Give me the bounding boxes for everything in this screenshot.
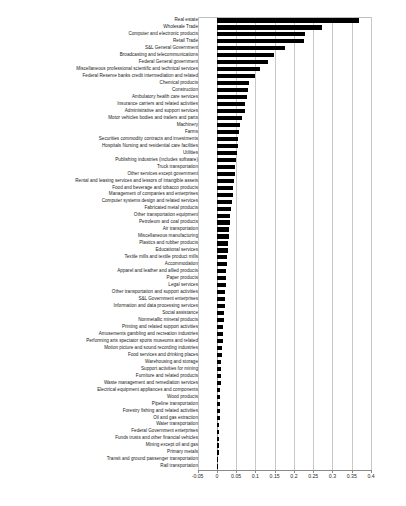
category-label: Oil and gas extraction <box>153 415 198 421</box>
bar <box>217 130 239 134</box>
bar <box>217 60 269 64</box>
category-label: Primary metals <box>167 449 198 455</box>
category-label: Retail Trade <box>173 38 198 44</box>
bar-row: Support activities for mining <box>0 365 406 372</box>
bar <box>217 39 304 43</box>
tickmark-0 <box>217 470 218 473</box>
bar <box>217 276 226 280</box>
bar-row: Utilities <box>0 149 406 156</box>
bar-row: Real estate <box>0 17 406 24</box>
bar-row: Social assistance <box>0 310 406 317</box>
x-tick-label: 0.1 <box>252 473 259 479</box>
bar-row: Funds trusts and other financial vehicle… <box>0 435 406 442</box>
category-label: Computer and electronic products <box>128 31 198 37</box>
x-tick-label: 0.2 <box>290 473 297 479</box>
category-label: Computer systems design and related serv… <box>102 198 198 204</box>
bar <box>217 423 220 427</box>
bar-row: Transit and ground passenger transportat… <box>0 456 406 463</box>
bar <box>217 88 248 92</box>
bar <box>217 95 247 99</box>
category-label: Mining except oil and gas <box>146 442 198 448</box>
x-tick-label: -0.05 <box>192 473 204 479</box>
bar <box>217 123 240 127</box>
bar-row: Management of companies and enterprises <box>0 191 406 198</box>
category-label: Ambulatory health care services <box>132 94 198 100</box>
category-label: Fabricated metal products <box>144 205 198 211</box>
bar-row: Food and beverage and tobacco products <box>0 184 406 191</box>
bar-row: Publishing industries (includes software… <box>0 156 406 163</box>
bar <box>217 18 360 22</box>
category-label: Transit and ground passenger transportat… <box>107 456 198 462</box>
category-label: Plastics and rubber products <box>139 240 198 246</box>
x-tick-label: 0.3 <box>329 473 336 479</box>
bar <box>217 67 260 71</box>
category-label: Miscellaneous manufacturing <box>138 233 198 239</box>
bar-row: Legal services <box>0 282 406 289</box>
category-label: Other transportation and support activit… <box>112 289 198 295</box>
bar-row: Motor vehicles bodies and trailers and p… <box>0 115 406 122</box>
bar <box>217 430 219 434</box>
bar-row: Water transportation <box>0 421 406 428</box>
category-label: Funds trusts and other financial vehicle… <box>115 435 198 441</box>
bar-row: Mining except oil and gas <box>0 442 406 449</box>
bar-row: Performing arts spectator sports museums… <box>0 338 406 345</box>
x-axis-line <box>198 470 372 471</box>
bar <box>217 395 220 399</box>
category-label: Other services except government <box>127 171 198 177</box>
x-tick-label: 0.15 <box>270 473 280 479</box>
bar <box>217 109 245 113</box>
bar <box>217 144 238 148</box>
bar-row: Forestry fishing and related activities <box>0 407 406 414</box>
bar <box>217 367 221 371</box>
bar-row: Food services and drinking places <box>0 352 406 359</box>
horizontal-bar-chart: Real estateWholesale TradeComputer and e… <box>0 0 406 506</box>
bar-row: Truck transportation <box>0 163 406 170</box>
bar <box>217 81 249 85</box>
category-label: Miscellaneous professional scientific an… <box>76 66 198 72</box>
category-label: Publishing industries (includes software… <box>115 157 198 163</box>
category-label: Farms <box>185 129 198 135</box>
bar <box>217 234 229 238</box>
x-tick-label: 0 <box>215 473 218 479</box>
category-label: Legal services <box>168 282 198 288</box>
bar-row: Miscellaneous professional scientific an… <box>0 66 406 73</box>
bar-row: Construction <box>0 87 406 94</box>
bar-row: Federal General government <box>0 59 406 66</box>
tickmark-0.4 <box>371 470 372 473</box>
category-label: Electrical equipment appliances and comp… <box>97 387 198 393</box>
category-label: Truck transportation <box>157 164 198 170</box>
tickmark-0.3 <box>332 470 333 473</box>
bar-row: Petroleum and coal products <box>0 219 406 226</box>
x-tick-label: 0.4 <box>367 473 374 479</box>
bar-row: Securities commodity contracts and inves… <box>0 135 406 142</box>
bar <box>217 53 274 57</box>
category-label: Air transportation <box>163 226 198 232</box>
category-label: Broadcasting and telecommunications <box>120 52 198 58</box>
bar-row: Plastics and rubber products <box>0 240 406 247</box>
category-label: Wood products <box>167 394 198 400</box>
bar-row: Administrative and support services <box>0 108 406 115</box>
tickmark-0.15 <box>275 470 276 473</box>
x-axis-tick-labels: -0.0500.050.10.150.20.250.30.350.4 <box>0 473 406 485</box>
bar <box>217 158 236 162</box>
category-label: Educational services <box>155 247 198 253</box>
bar-row: Accommodation <box>0 261 406 268</box>
bar <box>217 290 225 294</box>
bar <box>217 402 220 406</box>
bar-row: Furniture and related products <box>0 372 406 379</box>
bar-row: Waste management and remediation service… <box>0 379 406 386</box>
bar-row: Farms <box>0 129 406 136</box>
bar <box>217 214 230 218</box>
bar-row: Motion picture and sound recording indus… <box>0 345 406 352</box>
category-label: Securities commodity contracts and inves… <box>99 136 198 142</box>
category-label: Management of companies and enterprises <box>109 191 198 197</box>
bar-row: Air transportation <box>0 226 406 233</box>
category-label: Waste management and remediation service… <box>104 380 198 386</box>
category-label: Warehousing and storage <box>145 359 198 365</box>
bar <box>217 437 219 441</box>
bar <box>217 46 285 50</box>
bar <box>217 193 233 197</box>
bar-row: Miscellaneous manufacturing <box>0 233 406 240</box>
tickmark--0.05 <box>198 470 199 473</box>
bar-row: Federal Reserve banks credit intermediat… <box>0 73 406 80</box>
